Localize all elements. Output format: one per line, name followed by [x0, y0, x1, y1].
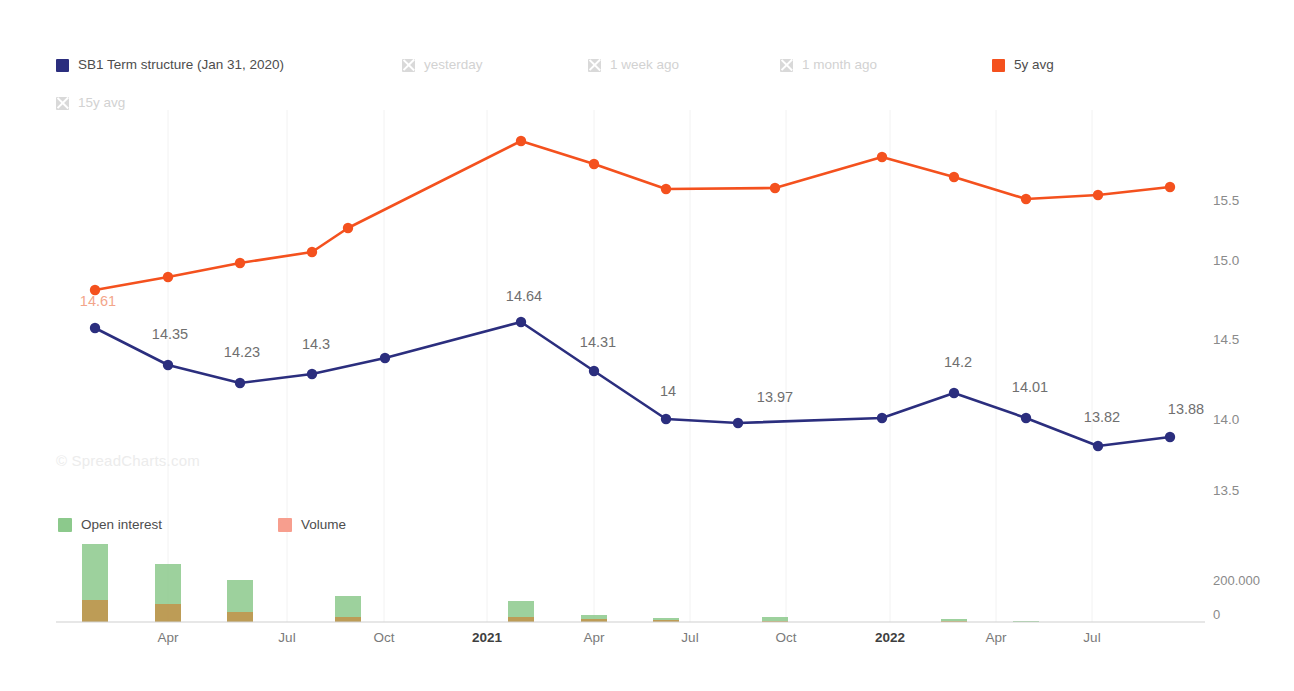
- open-interest-bar: [1013, 621, 1039, 622]
- legend-item-4[interactable]: 5y avg: [992, 52, 1054, 78]
- series-point-marker[interactable]: [733, 418, 743, 428]
- volume-axis-tick-label: 0: [1213, 607, 1220, 622]
- y-axis-tick-label: 14.5: [1213, 332, 1239, 347]
- open-interest-bar: [581, 615, 607, 622]
- x-axis-tick-label: 2021: [472, 630, 502, 645]
- data-point-label: 14.01: [1012, 379, 1048, 395]
- series-point-marker[interactable]: [380, 353, 390, 363]
- x-axis-tick-label: Oct: [373, 630, 394, 645]
- legend-disabled-x-icon: [588, 59, 601, 72]
- legend-disabled-x-icon: [780, 59, 793, 72]
- series-point-marker[interactable]: [1165, 432, 1175, 442]
- data-point-label: 14.23: [224, 344, 260, 360]
- x-axis-tick-label: 2022: [875, 630, 905, 645]
- x-axis-tick-label: Jul: [681, 630, 698, 645]
- data-point-label: 14.64: [506, 288, 542, 304]
- legend-item-2[interactable]: 1 week ago: [588, 52, 679, 78]
- volume-bars-group: [82, 544, 1039, 622]
- series-point-marker[interactable]: [1021, 194, 1031, 204]
- x-axis-tick-label: Apr: [985, 630, 1006, 645]
- series-point-marker[interactable]: [770, 183, 780, 193]
- volume-legend-label: Volume: [301, 518, 346, 532]
- data-point-label: 14.3: [302, 336, 330, 352]
- legend-color-swatch: [58, 518, 72, 532]
- volume-bar: [508, 617, 534, 622]
- series-point-marker[interactable]: [661, 414, 671, 424]
- y-axis-tick-label: 15.5: [1213, 193, 1239, 208]
- legend-item-1[interactable]: yesterday: [402, 52, 483, 78]
- volume-legend-item-0[interactable]: Open interest: [58, 512, 162, 538]
- chart-page: SB1 Term structure (Jan 31, 2020)yesterd…: [0, 0, 1294, 691]
- series-point-marker[interactable]: [661, 184, 671, 194]
- x-axis-tick-label: Apr: [583, 630, 604, 645]
- x-axis-tick-label: Apr: [157, 630, 178, 645]
- series-point-marker[interactable]: [589, 366, 599, 376]
- legend-color-swatch: [56, 59, 69, 72]
- volume-bar: [941, 621, 967, 622]
- data-point-label: 13.88: [1168, 401, 1204, 417]
- watermark: © SpreadCharts.com: [56, 452, 200, 469]
- volume-bar: [155, 604, 181, 622]
- open-interest-bar: [508, 601, 534, 622]
- series-point-marker[interactable]: [877, 413, 887, 423]
- y-axis-tick-label: 15.0: [1213, 253, 1239, 268]
- series-point-marker[interactable]: [516, 317, 526, 327]
- series-point-marker[interactable]: [235, 258, 245, 268]
- series-point-marker[interactable]: [90, 323, 100, 333]
- series-point-marker[interactable]: [343, 223, 353, 233]
- volume-bar: [762, 621, 788, 622]
- open-interest-bar: [653, 618, 679, 622]
- series-point-marker[interactable]: [1165, 182, 1175, 192]
- legend-color-swatch: [278, 518, 292, 532]
- series-point-marker[interactable]: [163, 272, 173, 282]
- legend-item-label: 5y avg: [1014, 58, 1054, 72]
- volume-axis-tick-label: 200.000: [1213, 573, 1260, 588]
- legend-item-label: 1 week ago: [610, 58, 679, 72]
- y-axis-tick-label: 14.0: [1213, 412, 1239, 427]
- legend-color-swatch: [992, 59, 1005, 72]
- volume-bar: [653, 620, 679, 622]
- data-point-label: 14.35: [152, 326, 188, 342]
- series-point-marker[interactable]: [1093, 190, 1103, 200]
- series-point-marker[interactable]: [163, 360, 173, 370]
- series-point-marker[interactable]: [516, 136, 526, 146]
- legend-item-3[interactable]: 1 month ago: [780, 52, 877, 78]
- legend-item-label: SB1 Term structure (Jan 31, 2020): [78, 58, 284, 72]
- open-interest-bar: [227, 580, 253, 622]
- y-axis-tick-label: 13.5: [1213, 483, 1239, 498]
- volume-bar: [581, 619, 607, 622]
- series-point-marker[interactable]: [1021, 413, 1031, 423]
- series-point-marker[interactable]: [1093, 441, 1103, 451]
- legend-item-label: 1 month ago: [802, 58, 877, 72]
- x-axis-tick-label: Jul: [278, 630, 295, 645]
- legend-disabled-x-icon: [56, 97, 69, 110]
- series-point-marker[interactable]: [949, 172, 959, 182]
- series-point-marker[interactable]: [307, 369, 317, 379]
- series-point-marker[interactable]: [877, 152, 887, 162]
- series-point-marker[interactable]: [235, 378, 245, 388]
- x-axis-tick-label: Oct: [775, 630, 796, 645]
- legend-item-5[interactable]: 15y avg: [56, 90, 125, 116]
- series-point-marker[interactable]: [307, 247, 317, 257]
- legend-item-0[interactable]: SB1 Term structure (Jan 31, 2020): [56, 52, 284, 78]
- legend-item-label: yesterday: [424, 58, 483, 72]
- series-line: [95, 141, 1170, 290]
- legend-disabled-x-icon: [402, 59, 415, 72]
- term-structure-line-chart: [0, 0, 1294, 691]
- data-point-label: 14.31: [580, 334, 616, 350]
- open-interest-bar: [941, 619, 967, 622]
- open-interest-bar: [82, 544, 108, 622]
- data-point-label: 13.97: [757, 389, 793, 405]
- series-point-marker[interactable]: [949, 388, 959, 398]
- volume-bar: [335, 617, 361, 622]
- legend-item-label: 15y avg: [78, 96, 125, 110]
- series-1: [90, 136, 1175, 295]
- series-point-marker[interactable]: [589, 159, 599, 169]
- x-axis-tick-label: Jul: [1083, 630, 1100, 645]
- open-interest-bar: [335, 596, 361, 622]
- data-point-label: 14: [660, 383, 676, 399]
- open-interest-bar: [155, 564, 181, 622]
- volume-legend-item-1[interactable]: Volume: [278, 512, 346, 538]
- series-line: [95, 322, 1170, 446]
- volume-legend-label: Open interest: [81, 518, 162, 532]
